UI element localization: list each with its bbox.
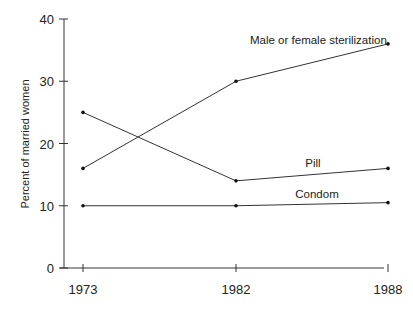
- line-chart: 010203040 197319821988 Percent of marrie…: [0, 0, 413, 313]
- data-point: [386, 167, 390, 171]
- x-tick-label: 1988: [374, 282, 403, 297]
- data-point: [81, 111, 85, 115]
- data-point: [81, 204, 85, 208]
- x-tick-label: 1982: [222, 282, 251, 297]
- y-tick-label: 30: [40, 74, 54, 89]
- data-point: [234, 79, 238, 83]
- data-point: [386, 201, 390, 205]
- series-lines: [81, 42, 390, 207]
- y-tick-label: 20: [40, 137, 54, 152]
- data-point: [81, 167, 85, 171]
- y-tick-label: 40: [40, 12, 54, 27]
- series-line: [83, 44, 388, 168]
- y-axis-label: Percent of married women: [19, 80, 31, 209]
- x-tick-label: 1973: [69, 282, 98, 297]
- y-tick-label: 0: [47, 261, 54, 276]
- chart-svg: 010203040 197319821988 Percent of marrie…: [0, 0, 413, 313]
- x-ticks: 197319821988: [69, 264, 403, 297]
- label-sterilization: Male or female sterilization: [250, 34, 387, 46]
- label-pill: Pill: [305, 157, 320, 169]
- data-point: [234, 179, 238, 183]
- y-tick-label: 10: [40, 199, 54, 214]
- series-labels: Male or female sterilization Pill Condom: [250, 34, 387, 200]
- label-condom: Condom: [295, 188, 338, 200]
- series-line: [83, 112, 388, 180]
- data-point: [234, 204, 238, 208]
